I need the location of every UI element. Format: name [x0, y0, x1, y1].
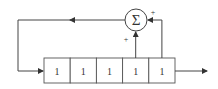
lfsr-diagram: 1 1 1 1 1 Σ + + [0, 0, 218, 89]
cell-3-value: 1 [107, 66, 112, 77]
tap-arrow-cell-5 [148, 20, 162, 58]
cell-5-value: 1 [159, 66, 164, 77]
cell-4-value: 1 [133, 66, 138, 77]
cell-1-value: 1 [55, 66, 60, 77]
cell-2-value: 1 [81, 66, 86, 77]
shift-register: 1 1 1 1 1 [44, 58, 175, 83]
adder-node: Σ [125, 9, 147, 31]
plus-sign-right: + [151, 8, 156, 17]
sigma-symbol: Σ [132, 12, 141, 28]
plus-sign-bottom: + [124, 35, 129, 44]
